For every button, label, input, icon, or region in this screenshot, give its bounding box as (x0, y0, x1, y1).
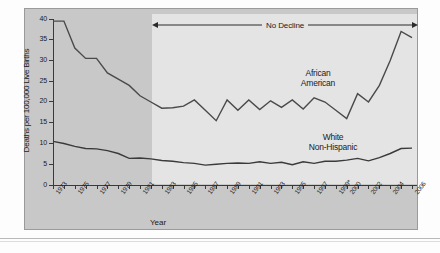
page-divider-rule-secondary (0, 241, 440, 242)
x-axis-title: Year (150, 218, 166, 227)
y-axis-title: Deaths per 100,000 Live Births (22, 31, 31, 171)
series-label-line2: American (288, 78, 348, 88)
page-divider-rule (0, 238, 440, 239)
no-decline-arrow-svg (0, 0, 440, 253)
no-decline-annotation: No Decline (262, 21, 308, 30)
series-label-african-american: African American (288, 68, 348, 88)
figure-container: 40 35 30 25 20 15 10 5 0 197319751977197… (0, 0, 440, 253)
series-label-white-non-hispanic: White Non-Hispanic (298, 132, 368, 152)
series-label-line1: African (288, 68, 348, 78)
chart-plot-area: 40 35 30 25 20 15 10 5 0 197319751977197… (0, 0, 440, 253)
series-label-line2: Non-Hispanic (298, 142, 368, 152)
series-label-line1: White (298, 132, 368, 142)
